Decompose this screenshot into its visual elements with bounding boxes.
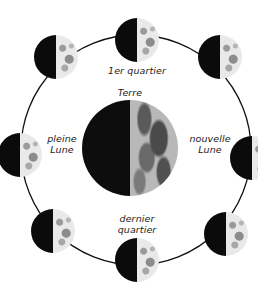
label-new-moon-line2: Lune [186, 144, 234, 155]
moon-left [0, 133, 42, 177]
label-full-moon: pleine Lune [42, 133, 82, 155]
moon-right [230, 136, 258, 180]
moon-top-left [34, 35, 78, 79]
moon-top [115, 18, 159, 62]
label-new-moon-line1: nouvelle [186, 133, 234, 144]
label-earth: Terre [110, 87, 150, 98]
moon-top-right [198, 35, 242, 79]
label-last-quarter: dernier quartier [110, 213, 164, 235]
moon-bottom-left [31, 209, 75, 253]
moon-bottom [115, 238, 159, 282]
label-new-moon: nouvelle Lune [186, 133, 234, 155]
label-last-quarter-line1: dernier [110, 213, 164, 224]
label-last-quarter-line2: quartier [110, 224, 164, 235]
moon-phases-diagram: 1er quartier Terre pleine Lune nouvelle … [0, 0, 258, 284]
label-full-moon-line1: pleine [42, 133, 82, 144]
earth-globe [82, 100, 178, 196]
label-full-moon-line2: Lune [42, 144, 82, 155]
earth-night-side [82, 100, 130, 196]
earth-day-side [130, 100, 178, 196]
label-first-quarter: 1er quartier [100, 65, 174, 76]
moon-bottom-right [204, 212, 248, 256]
